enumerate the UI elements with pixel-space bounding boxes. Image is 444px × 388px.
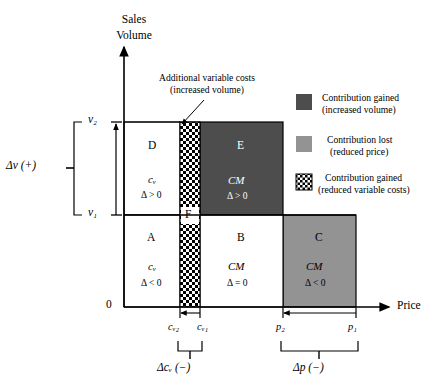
delta-cv-label: Δcᵥ (−) [157,362,190,374]
annotation-leader [182,100,204,124]
region-E-sub: CM [228,175,245,186]
legend-swatch-light [296,136,312,152]
delta-v-brace [74,122,82,215]
region-B-letter: B [237,232,245,244]
x-axis-title: Price [397,300,421,312]
region-D-rect [124,122,180,215]
y-tick-v2: v₂ [88,114,97,126]
delta-v-label: Δv (+) [6,160,36,172]
x-tick-p2: p₂ [276,322,285,333]
region-E-delta: Δ > 0 [227,192,247,202]
region-C-letter: C [315,232,323,244]
annotation-line2: (increased volume) [138,84,276,95]
origin-label: 0 [106,299,112,311]
region-D-delta: Δ > 0 [141,191,161,201]
y-axis-title-line1: Sales [104,14,164,26]
legend-swatch-checker [296,174,312,190]
region-C-delta: Δ < 0 [305,279,325,289]
delta-p-label: Δp (−) [293,362,324,374]
region-D-sub: cᵥ [148,174,156,185]
region-D-letter: D [148,140,156,152]
region-A-sub: cᵥ [148,261,156,272]
y-tick-v1: v₁ [88,207,97,219]
legend-item-2-line1: Contribution gained [325,172,402,184]
region-E-letter: E [237,140,244,152]
figure-canvas: Sales Volume Price 0 v₂ v₁ Δv (+) Additi… [0,0,444,388]
legend-item-0-line1: Contribution gained [322,92,399,104]
delta-cv-brace [178,341,202,351]
legend-item-1-line2: (reduced price) [330,146,388,158]
annotation-line1: Additional variable costs [138,72,276,83]
delta-p-brace [281,341,358,351]
x-tick-cv1: cᵥ₁ [197,322,208,333]
legend-item-1-line1: Contribution lost [327,134,392,146]
region-C-sub: CM [306,261,323,272]
x-tick-cv2: cᵥ₂ [168,322,179,333]
region-A-delta: Δ < 0 [141,279,161,289]
legend-item-2-line2: (reduced variable costs) [318,184,410,196]
legend-item-0-line2: (increased volume) [322,104,396,116]
x-tick-p1: p₁ [348,322,357,333]
legend-swatch-dark [296,94,312,110]
y-axis-title-line2: Volume [100,30,168,42]
region-F-letter: F [185,209,191,221]
region-B-delta: Δ = 0 [227,279,247,289]
region-A-letter: A [147,232,155,244]
region-B-sub: CM [228,261,245,272]
